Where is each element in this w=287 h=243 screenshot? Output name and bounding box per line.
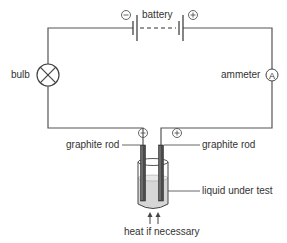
- heat-arrow-icons: [148, 212, 161, 224]
- graphite-rod-right-label: graphite rod: [202, 139, 255, 151]
- liquid-label: liquid under test: [202, 185, 273, 197]
- electrode-positive-icon: [173, 129, 182, 138]
- battery-label: battery: [142, 9, 173, 21]
- ammeter-symbol: A: [269, 71, 275, 81]
- battery-positive-terminal-icon: [189, 11, 198, 20]
- graphite-rod-left: [141, 145, 146, 201]
- graphite-rod-left-label: graphite rod: [66, 139, 119, 151]
- graphite-rod-right: [159, 145, 164, 201]
- battery-negative-terminal-icon: [122, 11, 131, 20]
- circuit-diagram: A: [0, 0, 287, 243]
- heat-label: heat if necessary: [124, 226, 200, 238]
- ammeter-label: ammeter: [221, 69, 260, 81]
- bulb-label: bulb: [11, 69, 30, 81]
- wire-top-right: [183, 28, 272, 69]
- bulb-icon: [37, 64, 59, 86]
- circuit-svg: A: [0, 0, 287, 243]
- wires: [48, 28, 272, 150]
- wire-top-left: [48, 28, 133, 64]
